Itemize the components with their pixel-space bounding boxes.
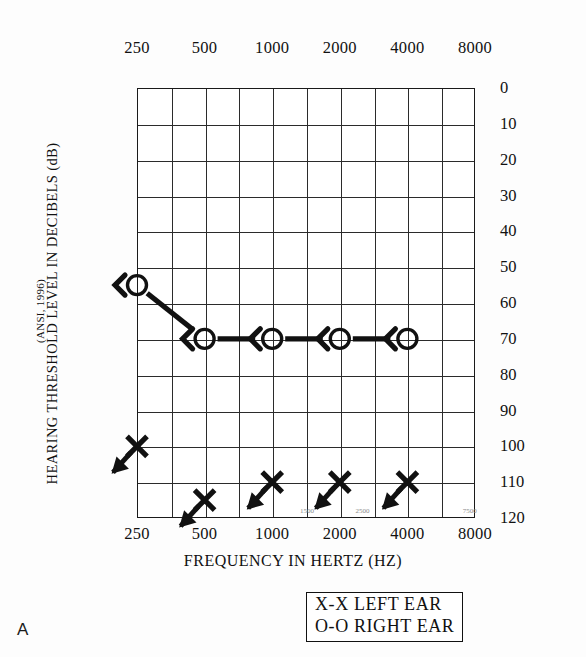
top-frequency-axis: 2505001000200040008000 (0, 38, 586, 62)
db-tick-right-110: 110 (500, 472, 524, 492)
no-response-arrow-head (113, 458, 127, 472)
freq-tick-top-4000: 4000 (390, 38, 424, 58)
gridline-vertical-750 (239, 89, 240, 517)
gridline-horizontal-30 (138, 197, 474, 198)
gridline-vertical-500 (206, 89, 207, 517)
freq-tick-bottom-2000: 2000 (323, 524, 357, 544)
freq-tick-top-1000: 1000 (255, 38, 289, 58)
db-tick-right-80: 80 (500, 365, 517, 385)
gridline-vertical-1500 (307, 89, 308, 517)
audiogram-plot: 150025007500 (137, 88, 475, 518)
y-axis-subtitle: (ANSI, 1996) (34, 151, 46, 471)
freq-tick-top-8000: 8000 (458, 38, 492, 58)
interoctave-label-1500: 1500 (300, 507, 314, 515)
y-axis-title: HEARING THRESHOLD LEVEL IN DECIBELS (dB) (44, 114, 61, 514)
db-tick-right-60: 60 (500, 293, 517, 313)
gridline-horizontal-110 (138, 483, 474, 484)
db-tick-right-70: 70 (500, 329, 517, 349)
gridline-horizontal-40 (138, 232, 474, 233)
freq-tick-top-2000: 2000 (323, 38, 357, 58)
db-tick-right-40: 40 (500, 221, 517, 241)
gridline-vertical-2000 (341, 89, 342, 517)
gridline-vertical-1000 (273, 89, 274, 517)
db-tick-right-30: 30 (500, 186, 517, 206)
gridline-horizontal-100 (138, 447, 474, 448)
gridline-horizontal-20 (138, 161, 474, 162)
masking-bracket-icon (115, 275, 125, 295)
panel-letter: A (17, 620, 28, 640)
freq-tick-bottom-250: 250 (124, 524, 150, 544)
db-tick-right-100: 100 (500, 436, 525, 456)
db-tick-right-90: 90 (500, 401, 517, 421)
gridline-horizontal-50 (138, 268, 474, 269)
db-tick-right-10: 10 (500, 114, 517, 134)
bottom-frequency-axis: 2505001000200040008000 (0, 524, 586, 548)
legend-right-ear: O-O RIGHT EAR (315, 616, 454, 638)
gridline-horizontal-90 (138, 412, 474, 413)
audiogram-figure: 2505001000200040008000 150025007500 2505… (0, 0, 586, 657)
freq-tick-top-250: 250 (124, 38, 150, 58)
x-axis-title: FREQUENCY IN HERTZ (HZ) (0, 552, 586, 570)
interoctave-label-2500: 2500 (356, 507, 370, 515)
gridline-vertical-3000 (375, 89, 376, 517)
gridline-horizontal-80 (138, 376, 474, 377)
gridline-horizontal-60 (138, 304, 474, 305)
db-tick-right-50: 50 (500, 257, 517, 277)
no-response-arrow-shaft (113, 452, 131, 472)
freq-tick-bottom-8000: 8000 (458, 524, 492, 544)
gridline-vertical-6000 (442, 89, 443, 517)
freq-tick-top-500: 500 (192, 38, 218, 58)
gridline-vertical-375 (172, 89, 173, 517)
freq-tick-bottom-1000: 1000 (255, 524, 289, 544)
gridline-horizontal-10 (138, 125, 474, 126)
db-tick-right-120: 120 (500, 508, 525, 528)
legend-left-ear: X-X LEFT EAR (315, 594, 454, 616)
gridline-horizontal-70 (138, 340, 474, 341)
freq-tick-bottom-4000: 4000 (390, 524, 424, 544)
db-tick-right-20: 20 (500, 150, 517, 170)
gridline-vertical-4000 (408, 89, 409, 517)
db-tick-right-0: 0 (500, 78, 508, 98)
freq-tick-bottom-500: 500 (192, 524, 218, 544)
interoctave-label-7500: 7500 (463, 507, 477, 515)
legend-box: X-X LEFT EAR O-O RIGHT EAR (306, 592, 463, 642)
